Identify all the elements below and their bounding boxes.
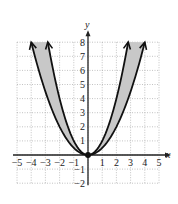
x-tick-label: 5 (157, 157, 162, 168)
y-tick-label: −1 (74, 164, 85, 175)
x-tick-label: −5 (12, 157, 23, 168)
x-tick-label: 2 (114, 157, 119, 168)
y-tick-label: 8 (80, 37, 85, 48)
parabola-graph: −5−4−3−2−112345−2−112345678 x y (0, 0, 178, 204)
x-tick-label: 1 (100, 157, 105, 168)
y-tick-label: 5 (80, 79, 85, 90)
y-tick-label: 3 (80, 107, 85, 118)
y-axis-label: y (84, 19, 90, 30)
x-axis-label: x (165, 149, 171, 160)
y-tick-label: −2 (74, 178, 85, 189)
y-tick-label: 4 (80, 93, 85, 104)
y-tick-label: 2 (80, 121, 85, 132)
x-tick-label: −4 (26, 157, 37, 168)
y-tick-label: 6 (80, 65, 85, 76)
x-tick-label: 4 (142, 157, 147, 168)
y-tick-label: 7 (80, 51, 85, 62)
x-tick-label: 3 (128, 157, 133, 168)
y-tick-label: 1 (80, 135, 85, 146)
x-tick-label: −2 (54, 157, 65, 168)
x-tick-label: −3 (40, 157, 51, 168)
origin-point (85, 152, 91, 158)
